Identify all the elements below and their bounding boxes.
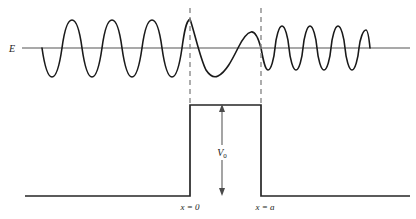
tick-label-x-zero: x = 0 (179, 202, 200, 212)
tick-label-x-a: x = a (254, 202, 275, 212)
barrier-height-label: V0 (217, 147, 227, 160)
arrowhead-down-icon (219, 188, 225, 196)
potential-barrier-figure: E V0 x = 0 x = a (0, 0, 416, 219)
barrier-height-subscript: 0 (223, 152, 227, 160)
energy-label: E (8, 43, 15, 54)
figure-canvas: E V0 x = 0 x = a (0, 0, 416, 219)
